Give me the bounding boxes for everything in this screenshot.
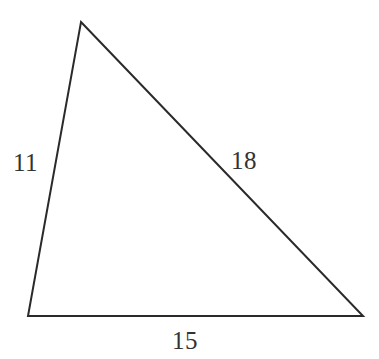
side-length-label-left: 11 [13,150,38,175]
triangle-outline [28,22,363,316]
side-length-label-right: 18 [231,148,257,173]
triangle-figure: 11 18 15 [0,0,379,359]
triangle-shape [0,0,379,359]
side-length-label-bottom: 15 [172,328,198,353]
